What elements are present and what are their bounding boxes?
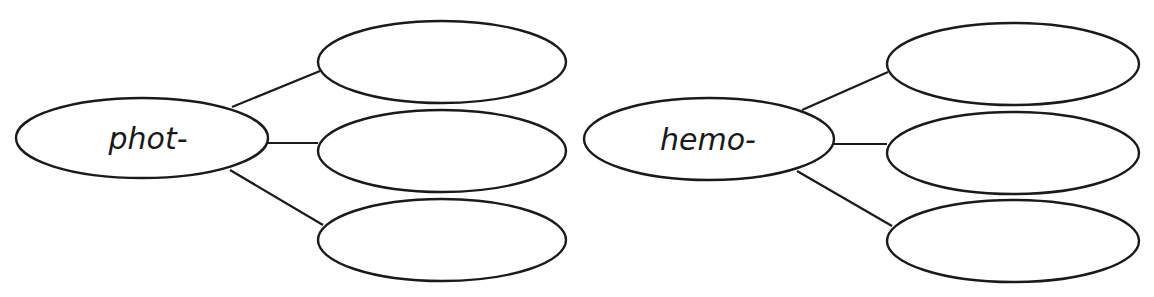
word-web-canvas: phot- hemo- (0, 0, 1154, 297)
branch-oval-2[interactable] (887, 112, 1139, 194)
word-web-phot: phot- (16, 21, 566, 281)
branch-oval-1[interactable] (887, 23, 1139, 105)
connector-line (230, 170, 323, 225)
connector-line (232, 71, 320, 107)
branch-oval-3[interactable] (887, 200, 1139, 282)
branch-oval-3[interactable] (318, 199, 566, 281)
center-label-hemo: hemo- (660, 122, 756, 157)
word-web-hemo: hemo- (584, 23, 1139, 282)
branch-oval-2[interactable] (318, 110, 566, 192)
branch-oval-1[interactable] (318, 21, 566, 103)
connector-line (802, 72, 888, 110)
connector-line (797, 171, 892, 226)
center-label-phot: phot- (108, 121, 188, 156)
